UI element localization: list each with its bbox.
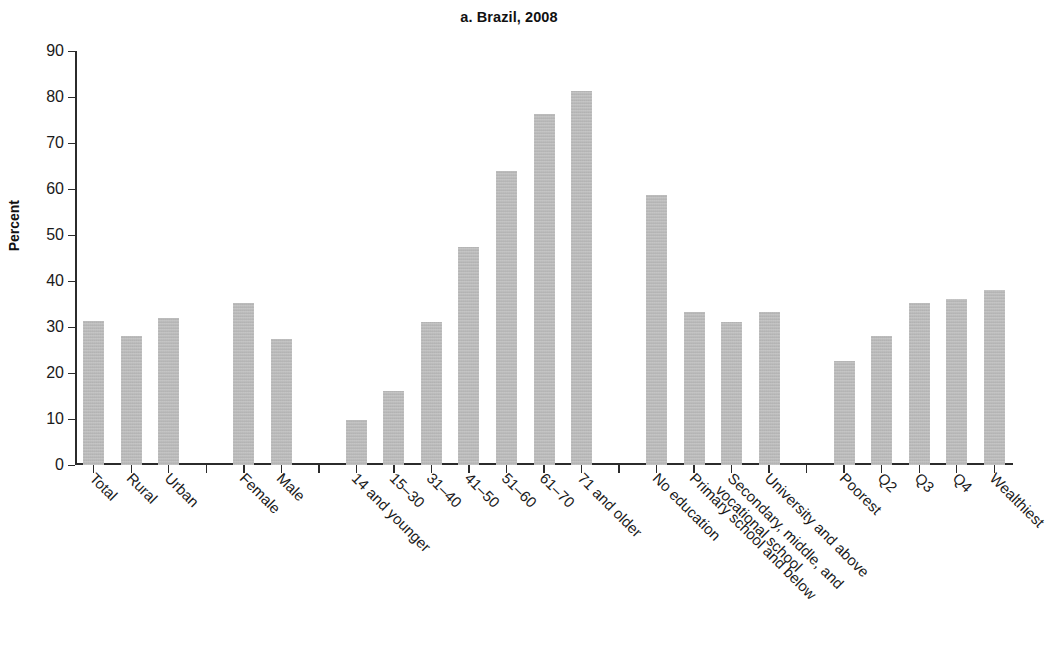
bar	[646, 195, 667, 465]
y-axis-tick-label: 10	[46, 410, 64, 428]
x-axis-tick-label: Q3	[911, 470, 937, 496]
bar	[233, 303, 254, 465]
chart-title: a. Brazil, 2008	[0, 9, 1018, 25]
y-axis-tick-mark	[68, 189, 75, 190]
x-axis-tick-label-line: Q3	[912, 469, 938, 495]
y-axis-tick-mark	[68, 281, 75, 282]
y-axis-tick-label: 0	[55, 456, 64, 474]
x-axis-tick-label: Rural	[123, 470, 160, 507]
x-axis-tick-label: Q2	[874, 470, 900, 496]
bar	[346, 420, 367, 465]
bar	[759, 312, 780, 465]
x-axis-tick-label: 61–70	[536, 470, 577, 511]
x-axis-tick-label: Urban	[161, 470, 202, 511]
x-axis-tick-label-line: Wealthiest	[987, 469, 1048, 530]
x-axis-tick-label: 51–60	[499, 470, 540, 511]
x-axis-tick-label: Total	[86, 470, 120, 504]
y-axis-tick-label: 40	[46, 272, 64, 290]
y-axis-tick-mark	[68, 143, 75, 144]
y-axis-tick-label: 30	[46, 318, 64, 336]
y-axis-tick-mark	[68, 51, 75, 52]
bar	[984, 290, 1005, 465]
y-axis-label: Percent	[6, 149, 22, 200]
bar	[871, 336, 892, 465]
bar	[496, 171, 517, 465]
x-axis-tick-label-line: vocational school	[712, 482, 835, 605]
y-axis-tick-label: 70	[46, 134, 64, 152]
bar	[946, 299, 967, 465]
x-axis-tick-label-line: 61–70	[537, 469, 579, 511]
x-axis-tick-label-line: Q2	[874, 469, 900, 495]
x-axis-tick-label-line: 31–40	[424, 469, 466, 511]
y-axis-tick-mark	[68, 235, 75, 236]
bar	[834, 361, 855, 465]
y-axis-tick-label: 90	[46, 42, 64, 60]
bar	[534, 114, 555, 465]
y-axis-tick-mark	[68, 97, 75, 98]
y-axis-tick-mark	[68, 327, 75, 328]
x-axis-tick-label: 31–40	[424, 470, 465, 511]
y-axis-tick-mark	[68, 373, 75, 374]
y-axis-tick-label: 20	[46, 364, 64, 382]
bar	[383, 391, 404, 465]
y-axis-tick-label: 80	[46, 88, 64, 106]
x-axis-tick-label: Q4	[949, 470, 975, 496]
y-axis-tick-label: 50	[46, 226, 64, 244]
x-axis-tick-label: Wealthiest	[986, 470, 1047, 531]
y-axis-tick-mark	[68, 465, 75, 466]
bar	[684, 312, 705, 465]
x-axis-tick-label: 41–50	[461, 470, 502, 511]
bar	[158, 318, 179, 465]
x-axis-labels: TotalRuralUrbanFemaleMale14 and younger1…	[75, 470, 1013, 645]
y-axis-tick-label: 60	[46, 180, 64, 198]
bar	[121, 336, 142, 465]
x-axis-tick-label-line: Urban	[161, 469, 202, 510]
bar	[721, 322, 742, 465]
x-axis-tick-label-line: Total	[86, 469, 120, 503]
x-axis-tick-label-line: 41–50	[462, 469, 504, 511]
bar	[909, 303, 930, 465]
x-axis-tick-label: 71 and older	[574, 470, 645, 541]
y-axis-label-text: Percent	[6, 200, 22, 251]
x-axis-tick-label-line: Rural	[124, 469, 161, 506]
bar	[83, 321, 104, 465]
y-axis-tick-mark	[68, 419, 75, 420]
bar	[458, 247, 479, 466]
plot-area: 0102030405060708090	[75, 51, 1013, 465]
bar	[271, 339, 292, 466]
x-axis-tick-label-line: 51–60	[499, 469, 541, 511]
y-axis-line	[75, 51, 77, 465]
x-axis-tick-label-line: Q4	[949, 469, 975, 495]
bar	[571, 91, 592, 465]
bar	[421, 322, 442, 465]
x-axis-tick-label-line: 71 and older	[574, 469, 645, 540]
